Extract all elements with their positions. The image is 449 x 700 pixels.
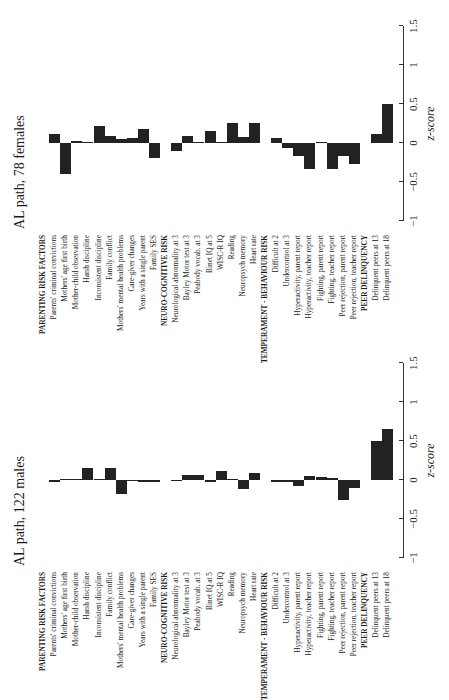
category-label: WISC-R IQ	[216, 572, 225, 607]
data-bar	[338, 143, 349, 156]
category-label: Hyperactivity, parent report	[293, 235, 302, 316]
group-header: PARENTING RISK FACTORS	[38, 235, 47, 334]
axis-tick	[399, 220, 403, 221]
data-bar	[49, 480, 60, 482]
category-label: Reading	[227, 235, 236, 259]
x-axis	[403, 26, 404, 221]
data-bar	[127, 480, 138, 481]
axis-tick-label: 0	[407, 477, 419, 483]
category-label: Neuropsych memory	[238, 235, 247, 296]
category-label: Fighting, teacher report	[327, 235, 336, 304]
data-bar	[382, 104, 393, 143]
data-bar	[49, 134, 60, 143]
data-bar	[60, 143, 71, 174]
group-header: PEER DELINQUENCY	[360, 235, 369, 311]
category-label: Fighting, parent report	[316, 235, 325, 301]
x-axis-label: z-score	[423, 106, 438, 140]
category-label: Peabody vocab. at 3	[193, 235, 202, 294]
data-bar	[249, 124, 260, 144]
category-label: Hyperactivity, teacher report	[304, 235, 313, 319]
x-axis	[403, 363, 404, 558]
data-bar	[338, 480, 349, 500]
female-chart-rotated: AL path, 78 females PARENTING RISK FACTO…	[0, 0, 449, 337]
data-bar	[116, 480, 127, 494]
category-label: Mothers' age first birth	[60, 235, 69, 302]
category-label: Delinquent peers at 13	[371, 572, 380, 638]
axis-tick-label: −0.5	[407, 172, 419, 192]
data-bar	[216, 471, 227, 480]
data-bar	[193, 475, 204, 480]
data-bar	[116, 139, 127, 143]
data-bar	[293, 480, 304, 486]
axis-tick-label: 0	[407, 140, 419, 146]
data-bar	[371, 441, 382, 480]
axis-tick-label: 1	[407, 62, 419, 68]
category-label: Delinquent peers at 18	[382, 235, 391, 301]
category-label: Years with a single parent	[138, 572, 147, 647]
category-label: Hyperactivity, parent report	[293, 572, 302, 653]
category-label: Neurological abnormality at 3	[171, 572, 180, 660]
data-bar	[149, 480, 160, 482]
category-label: WISC-R IQ	[216, 235, 225, 270]
data-bar	[138, 129, 149, 143]
category-label: Family SES	[149, 235, 158, 270]
axis-tick-label: −1	[407, 552, 419, 564]
data-bar	[304, 143, 315, 169]
axis-tick-label: 0.5	[407, 97, 419, 111]
data-bar	[316, 477, 327, 480]
category-label: Peer rejection, teacher report	[349, 572, 358, 656]
data-bar	[94, 479, 105, 480]
data-bar	[327, 478, 338, 480]
axis-tick	[399, 557, 403, 558]
data-bar	[82, 468, 93, 480]
chart-body: PARENTING RISK FACTORSParents' criminal …	[0, 337, 449, 674]
category-label: Mothers' mental health problems	[116, 572, 125, 668]
chart-body: PARENTING RISK FACTORSParents' criminal …	[0, 0, 449, 337]
category-label: Harsh discipline	[82, 572, 91, 620]
group-header: TEMPERAMENT - BEHAVIOUR RISK	[260, 572, 269, 700]
data-bar	[249, 473, 260, 480]
axis-tick-label: 1.5	[407, 356, 419, 370]
axis-tick-label: −1	[407, 215, 419, 227]
category-label: Parents' criminal convictions	[49, 572, 58, 656]
axis-tick	[399, 362, 403, 363]
category-label: Family SES	[149, 572, 158, 607]
data-bar	[182, 136, 193, 143]
category-label: Peer rejection, parent report	[338, 235, 347, 316]
category-label: Bayley Motor test at 3	[182, 572, 191, 637]
data-bar	[149, 143, 160, 158]
category-label: Fighting, parent report	[316, 572, 325, 638]
category-label: Care-giver changes	[127, 235, 136, 292]
data-bar	[71, 141, 82, 143]
category-label: Years with a single parent	[138, 235, 147, 310]
data-bar	[71, 479, 82, 480]
category-label: Neurological abnormality at 3	[171, 235, 180, 323]
male-chart-rotated: AL path, 122 males PARENTING RISK FACTOR…	[0, 337, 449, 674]
category-label: Mothers' mental health problems	[116, 235, 125, 331]
category-label: Heart rate	[249, 235, 258, 264]
category-label: Inconsistent discipline	[94, 235, 103, 300]
data-bar	[205, 131, 216, 143]
data-bar	[182, 475, 193, 480]
data-bar	[138, 480, 149, 482]
axis-tick	[399, 142, 403, 143]
axis-tick-label: 1.5	[407, 19, 419, 33]
category-label: Neuropsych memory	[238, 572, 247, 633]
category-label: Family conflict	[105, 572, 114, 617]
data-bar	[127, 138, 138, 143]
axis-tick	[399, 479, 403, 480]
data-bar	[316, 142, 327, 143]
category-label: Difficult at 2	[271, 235, 280, 273]
axis-tick	[399, 25, 403, 26]
category-label: Family conflict	[105, 235, 114, 280]
category-label: Mother-child observation	[71, 572, 80, 646]
category-label: Parents' criminal convictions	[49, 235, 58, 319]
category-label: Binet IQ at 5	[205, 572, 214, 610]
group-header: PARENTING RISK FACTORS	[38, 572, 47, 671]
data-bar	[105, 468, 116, 480]
data-bar	[171, 143, 182, 151]
data-bar	[171, 480, 182, 481]
category-label: Reading	[227, 572, 236, 596]
group-header: NEURO-COGNITIVE RISK	[160, 235, 169, 326]
axis-tick-label: −0.5	[407, 509, 419, 529]
